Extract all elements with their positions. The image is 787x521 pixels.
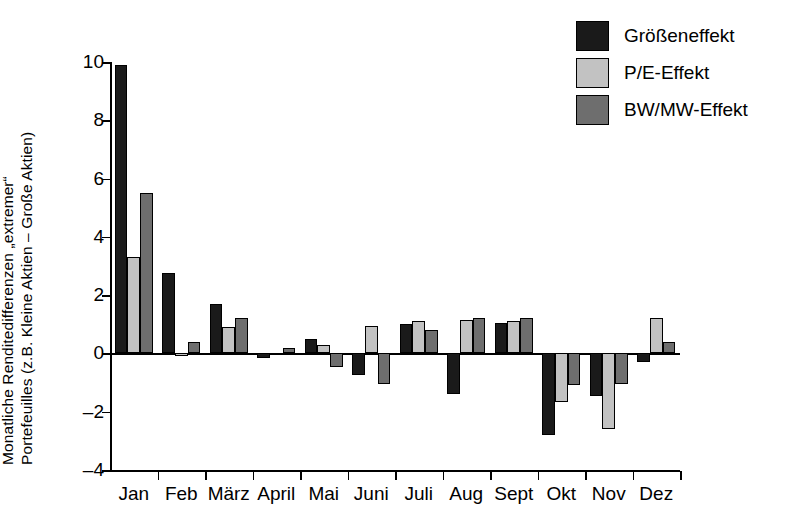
x-tick-mark — [633, 471, 635, 480]
bar-aug-0 — [447, 353, 460, 394]
y-axis-title-line-2: Portefeuilles (z.B. Kleine Aktien – Groß… — [18, 20, 38, 465]
bar-nov-2 — [615, 353, 628, 384]
chart-figure: Monatliche Renditedifferenzen „extremer“… — [0, 0, 787, 521]
bar-aug-2 — [473, 318, 486, 353]
x-tick-mark — [443, 471, 445, 480]
x-tick-label: April — [257, 483, 295, 505]
bar-juni-1 — [365, 326, 378, 354]
bar-april-0 — [257, 353, 270, 357]
y-tick-label: 4 — [93, 226, 104, 248]
y-axis-title-line-1: Monatliche Renditedifferenzen „extremer“ — [0, 20, 19, 465]
legend-swatch-icon — [576, 21, 609, 51]
bar-feb-0 — [162, 273, 175, 353]
y-tick-label: 8 — [93, 109, 104, 131]
legend-swatch-icon — [576, 95, 609, 125]
bar-okt-2 — [568, 353, 581, 385]
bar-juni-2 — [378, 353, 391, 384]
y-axis-title: Monatliche Renditedifferenzen „extremer“… — [0, 0, 58, 470]
x-tick-label: Okt — [546, 483, 576, 505]
x-tick-label: Nov — [592, 483, 626, 505]
bar-jan-0 — [115, 65, 128, 354]
legend-label: BW/MW-Effekt — [624, 99, 748, 121]
bar-dez-0 — [637, 353, 650, 362]
legend-item-0: Größeneffekt — [576, 18, 781, 54]
bar-okt-0 — [542, 353, 555, 435]
x-tick-mark — [490, 471, 492, 480]
bar-aug-1 — [460, 320, 473, 354]
bar-juni-0 — [352, 353, 365, 375]
bar-jan-2 — [140, 193, 153, 353]
x-tick-label: Aug — [449, 483, 483, 505]
bar-sept-0 — [495, 323, 508, 354]
bar-märz-1 — [222, 327, 235, 353]
bar-april-2 — [283, 348, 296, 354]
x-tick-mark — [348, 471, 350, 480]
y-tick-label: –2 — [83, 401, 104, 423]
x-tick-mark — [300, 471, 302, 480]
legend-swatch-icon — [576, 58, 609, 88]
x-tick-mark — [253, 471, 255, 480]
bar-mai-2 — [330, 353, 343, 366]
chart-legend: GrößeneffektP/E-EffektBW/MW-Effekt — [576, 18, 781, 129]
bar-okt-1 — [555, 353, 568, 401]
x-tick-mark — [395, 471, 397, 480]
bar-mai-0 — [305, 339, 318, 354]
x-tick-label: Dez — [639, 483, 673, 505]
x-tick-mark — [585, 471, 587, 480]
x-tick-label: Mai — [308, 483, 339, 505]
bar-feb-1 — [175, 353, 188, 356]
bar-sept-1 — [507, 321, 520, 353]
x-tick-mark — [680, 471, 682, 480]
bar-feb-2 — [188, 342, 201, 354]
bar-nov-0 — [590, 353, 603, 395]
x-tick-label: Juni — [354, 483, 389, 505]
x-tick-mark — [205, 471, 207, 480]
x-tick-label: Juli — [404, 483, 433, 505]
bar-jan-1 — [127, 257, 140, 353]
y-tick-label: 6 — [93, 168, 104, 190]
bar-sept-2 — [520, 318, 533, 353]
legend-label: P/E-Effekt — [624, 62, 709, 84]
y-tick-label: –4 — [83, 459, 104, 481]
y-tick-label: 0 — [93, 342, 104, 364]
y-tick-label: 2 — [93, 284, 104, 306]
legend-item-1: P/E-Effekt — [576, 55, 781, 91]
x-tick-mark — [158, 471, 160, 480]
x-tick-label: Feb — [165, 483, 198, 505]
bar-dez-1 — [650, 318, 663, 353]
x-tick-label: März — [208, 483, 250, 505]
bar-mai-1 — [317, 345, 330, 354]
x-tick-label: Sept — [494, 483, 533, 505]
bar-juli-0 — [400, 324, 413, 353]
legend-label: Größeneffekt — [624, 25, 735, 47]
x-tick-label: Jan — [118, 483, 149, 505]
bar-nov-1 — [602, 353, 615, 429]
bar-juli-2 — [425, 330, 438, 353]
y-axis-line — [110, 62, 112, 472]
x-tick-mark — [538, 471, 540, 480]
y-tick-label: 10 — [83, 51, 104, 73]
bar-märz-2 — [235, 318, 248, 353]
legend-item-2: BW/MW-Effekt — [576, 92, 781, 128]
bar-märz-0 — [210, 304, 223, 354]
bar-juli-1 — [412, 321, 425, 353]
bar-dez-2 — [663, 342, 676, 354]
